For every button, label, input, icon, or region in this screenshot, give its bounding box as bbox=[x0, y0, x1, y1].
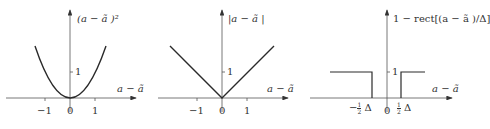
y-axis-label: 1 − rect[(a − ã )/Δ] bbox=[393, 14, 490, 24]
step-right bbox=[401, 72, 425, 98]
x-tick: 0 bbox=[67, 106, 73, 116]
step-left bbox=[330, 72, 372, 98]
x-tick: 0 bbox=[219, 106, 225, 116]
y-tick: 1 bbox=[227, 67, 233, 77]
x-axis-label: a − ã bbox=[117, 84, 144, 94]
panel-absolute-error bbox=[158, 10, 288, 112]
panel-squared-error bbox=[6, 10, 136, 112]
x-tick: −1 bbox=[189, 106, 204, 116]
x-tick-pos-half-delta: 12 Δ bbox=[397, 102, 411, 115]
x-axis-label: a − ã bbox=[267, 84, 294, 94]
y-axis-label: (a − ã )² bbox=[77, 14, 119, 24]
x-tick-neg-half-delta: −12 Δ bbox=[349, 102, 372, 115]
y-tick: 1 bbox=[75, 67, 81, 77]
y-tick: 1 bbox=[392, 67, 398, 77]
x-tick: −1 bbox=[37, 106, 52, 116]
x-tick: 0 bbox=[384, 106, 390, 116]
y-axis-label: |a − ã | bbox=[228, 14, 265, 24]
x-axis-label: a − ã bbox=[432, 84, 459, 94]
x-tick: 1 bbox=[92, 106, 98, 116]
panel-uniform-error bbox=[310, 10, 452, 112]
x-tick: 1 bbox=[244, 106, 250, 116]
